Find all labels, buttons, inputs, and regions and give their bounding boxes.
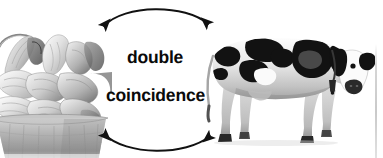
label-coincidence: coincidence	[106, 85, 205, 106]
double-coincidence-arrows	[88, 0, 228, 158]
label-double: double	[127, 47, 183, 68]
right-edge-rule	[375, 44, 377, 158]
top-arc-arrow	[104, 9, 208, 26]
bottom-arc-arrow	[104, 134, 210, 151]
figure-canvas: double coincidence	[0, 0, 383, 158]
